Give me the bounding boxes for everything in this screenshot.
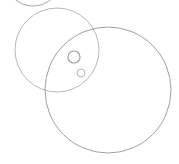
medium-circle — [15, 8, 99, 92]
small-circle-1 — [68, 51, 80, 63]
small-circle-2 — [77, 69, 85, 77]
top-arc-circle — [5, 0, 61, 6]
large-circle — [45, 27, 171, 153]
circle-diagram — [0, 0, 179, 164]
